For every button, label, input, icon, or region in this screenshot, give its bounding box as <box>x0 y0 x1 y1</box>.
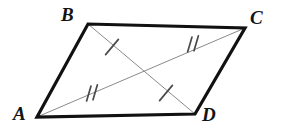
vertex-label-a: A <box>13 104 26 123</box>
vertex-label-d: D <box>202 105 216 124</box>
geometry-figure-canvas: A B C D <box>0 0 283 138</box>
tick-ac-near-a <box>87 85 98 101</box>
vertex-label-b: B <box>61 5 74 24</box>
tick-bd-near-b <box>106 39 119 54</box>
parallelogram-diagram <box>0 0 283 138</box>
tick-ac-near-c <box>188 36 199 52</box>
vertex-label-c: C <box>250 8 263 27</box>
diagonal-bd <box>88 24 195 114</box>
